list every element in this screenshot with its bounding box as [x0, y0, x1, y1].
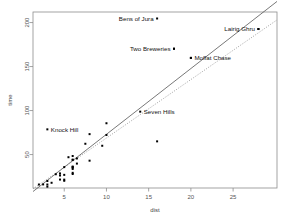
data-point [105, 122, 107, 124]
labeled-points-group: Bens of JuraLairig GhruTwo BreweriesMoff… [46, 15, 259, 133]
x-tick-label: 25 [230, 194, 237, 200]
data-point [59, 179, 61, 181]
data-point-labeled [139, 111, 141, 113]
x-axis-title: dist [150, 207, 160, 213]
y-tick-label: 100 [24, 105, 30, 116]
data-point [84, 143, 86, 145]
data-point [63, 174, 65, 176]
data-point [46, 186, 48, 188]
data-point-labeled [173, 48, 175, 50]
y-axis-title: time [7, 94, 13, 106]
point-label: Bens of Jura [119, 15, 154, 22]
plot-frame [33, 12, 277, 188]
scatter-plot-figure: 510152025 50100150200 Bens of JuraLairig… [0, 0, 286, 218]
data-point [76, 163, 78, 165]
data-point [42, 183, 44, 185]
x-tick-label: 10 [103, 194, 110, 200]
data-point [46, 184, 48, 186]
data-point [72, 166, 74, 168]
data-point [89, 160, 91, 162]
x-tick-label: 15 [145, 194, 152, 200]
x-tick-label: 20 [188, 194, 195, 200]
data-point-labeled [190, 57, 192, 59]
data-point [59, 174, 61, 176]
data-point [72, 159, 74, 161]
data-point-labeled [46, 128, 48, 130]
data-point [59, 172, 61, 174]
point-label: Seven Hills [144, 108, 175, 115]
data-point [63, 180, 65, 182]
data-point [105, 134, 107, 136]
x-axis-ticks: 510152025 [63, 188, 238, 200]
y-axis-ticks: 50100150200 [24, 17, 33, 158]
point-label: Two Breweries [130, 45, 171, 52]
point-label: Moffat Chase [194, 54, 231, 61]
data-point-labeled [257, 28, 259, 30]
data-point [89, 133, 91, 135]
data-point [72, 172, 74, 174]
data-point [72, 155, 74, 157]
data-point [101, 145, 103, 147]
data-point [55, 173, 57, 175]
plot-canvas: 510152025 50100150200 Bens of JuraLairig… [0, 0, 286, 218]
y-tick-label: 50 [24, 151, 30, 158]
point-label: Lairig Ghru [224, 25, 255, 32]
x-tick-label: 5 [63, 194, 67, 200]
data-point [76, 157, 78, 159]
data-point [67, 156, 69, 158]
y-tick-label: 150 [24, 61, 30, 72]
data-point [51, 182, 53, 184]
y-tick-label: 200 [24, 17, 30, 28]
data-point [46, 180, 48, 182]
data-point [156, 140, 158, 142]
data-point [63, 166, 65, 168]
data-point [38, 184, 40, 186]
data-point-labeled [156, 17, 158, 19]
point-label: Knock Hill [51, 126, 79, 133]
